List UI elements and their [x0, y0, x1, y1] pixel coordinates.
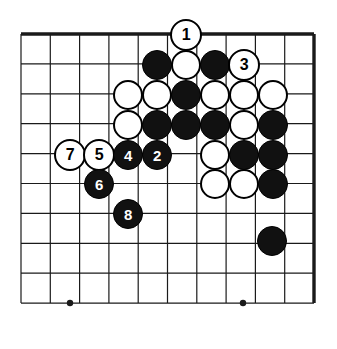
black-stone[interactable]	[171, 110, 201, 140]
move-number-label: 4	[124, 148, 132, 163]
white-stone-move-3[interactable]: 3	[228, 49, 260, 81]
black-stone[interactable]	[258, 169, 288, 199]
black-stone-move-6[interactable]: 6	[84, 169, 114, 199]
black-stone[interactable]	[200, 50, 230, 80]
move-number-label: 1	[182, 27, 190, 43]
white-stone[interactable]	[200, 80, 230, 110]
black-stone[interactable]	[258, 140, 288, 170]
white-stone[interactable]	[229, 110, 259, 140]
white-stone[interactable]	[200, 169, 230, 199]
black-stone[interactable]	[258, 110, 288, 140]
black-stone[interactable]	[171, 80, 201, 110]
go-diagram-figure: 13754268	[0, 0, 337, 349]
move-number-label: 5	[95, 147, 103, 163]
white-stone[interactable]	[142, 80, 172, 110]
white-stone[interactable]	[229, 80, 259, 110]
move-number-label: 7	[66, 147, 74, 163]
black-stone[interactable]	[142, 110, 172, 140]
black-stone[interactable]	[229, 140, 259, 170]
black-stone-move-4[interactable]: 4	[113, 140, 143, 170]
move-number-label: 8	[124, 207, 132, 222]
white-stone[interactable]	[171, 50, 201, 80]
white-stone[interactable]	[229, 169, 259, 199]
black-stone-move-8[interactable]: 8	[113, 199, 143, 229]
move-number-label: 6	[95, 177, 103, 192]
move-number-label: 3	[240, 57, 248, 73]
black-stone[interactable]	[142, 50, 172, 80]
star-point	[67, 300, 73, 306]
star-point	[240, 300, 246, 306]
black-stone[interactable]	[257, 226, 287, 256]
black-stone[interactable]	[200, 110, 230, 140]
white-stone[interactable]	[200, 140, 230, 170]
white-stone-move-7[interactable]: 7	[54, 139, 86, 171]
white-stone-move-1[interactable]: 1	[170, 19, 202, 51]
black-stone-move-2[interactable]: 2	[142, 140, 172, 170]
white-stone-move-5[interactable]: 5	[83, 139, 115, 171]
white-stone[interactable]	[258, 80, 288, 110]
move-number-label: 2	[153, 148, 161, 163]
go-board-grid	[0, 0, 337, 349]
white-stone[interactable]	[113, 110, 143, 140]
white-stone[interactable]	[113, 80, 143, 110]
